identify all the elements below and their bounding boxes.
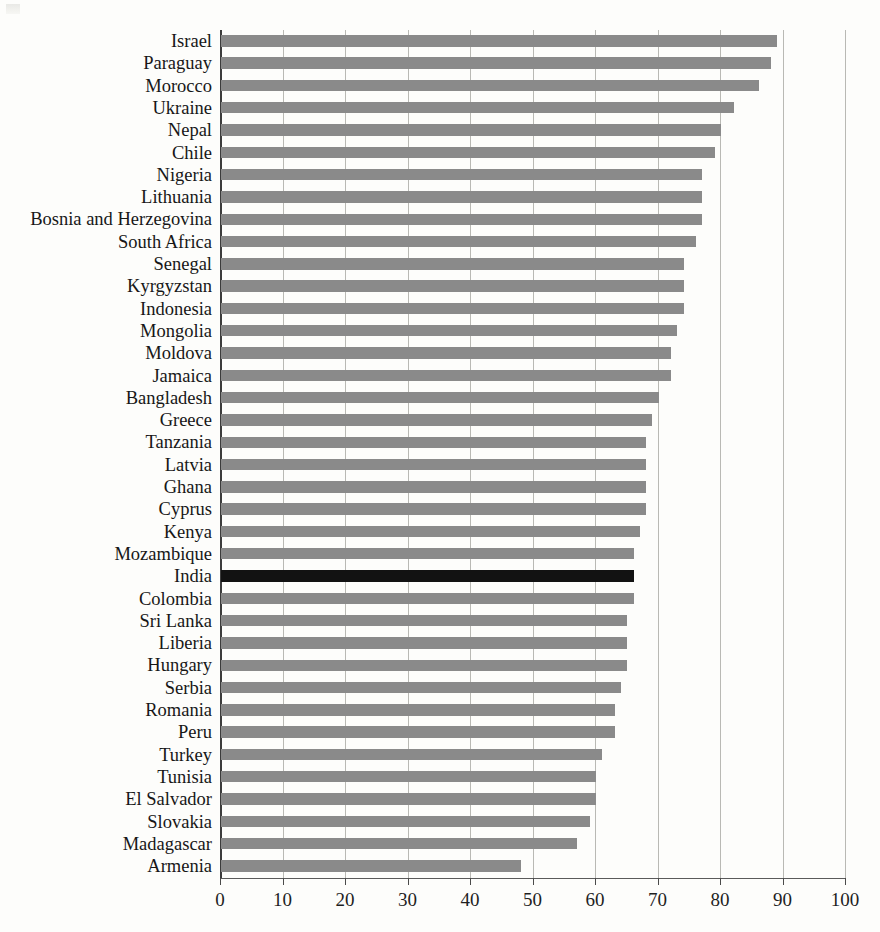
bar-row: Israel bbox=[0, 30, 880, 52]
tick-30 bbox=[408, 878, 409, 885]
bar-row: Chile bbox=[0, 142, 880, 164]
category-label-tunisia: Tunisia bbox=[0, 766, 212, 788]
bar-row: Senegal bbox=[0, 253, 880, 275]
bar-row: Ghana bbox=[0, 476, 880, 498]
category-label-moldova: Moldova bbox=[0, 342, 212, 364]
tick-70 bbox=[658, 878, 659, 885]
x-tick-label-40: 40 bbox=[440, 888, 500, 912]
bar-peru bbox=[221, 726, 615, 737]
category-label-hungary: Hungary bbox=[0, 654, 212, 676]
bar-row: Kyrgyzstan bbox=[0, 275, 880, 297]
category-label-madagascar: Madagascar bbox=[0, 833, 212, 855]
tick-100 bbox=[845, 878, 846, 885]
bar-row: Nigeria bbox=[0, 164, 880, 186]
category-label-peru: Peru bbox=[0, 721, 212, 743]
bar-liberia bbox=[221, 637, 627, 648]
bar-row: Ukraine bbox=[0, 97, 880, 119]
category-label-nepal: Nepal bbox=[0, 119, 212, 141]
bar-row: El Salvador bbox=[0, 788, 880, 810]
bar-row: Armenia bbox=[0, 855, 880, 877]
category-label-ghana: Ghana bbox=[0, 476, 212, 498]
bar-row: Bangladesh bbox=[0, 387, 880, 409]
bar-colombia bbox=[221, 593, 634, 604]
x-tick-label-0: 0 bbox=[190, 888, 250, 912]
x-tick-label-80: 80 bbox=[690, 888, 750, 912]
category-label-bangladesh: Bangladesh bbox=[0, 387, 212, 409]
tick-50 bbox=[533, 878, 534, 885]
bar-row: Colombia bbox=[0, 588, 880, 610]
category-label-nigeria: Nigeria bbox=[0, 164, 212, 186]
bar-row: Hungary bbox=[0, 654, 880, 676]
category-label-el-salvador: El Salvador bbox=[0, 788, 212, 810]
bar-row: South Africa bbox=[0, 231, 880, 253]
bar-row: Greece bbox=[0, 409, 880, 431]
bar-row: Lithuania bbox=[0, 186, 880, 208]
tick-20 bbox=[345, 878, 346, 885]
bar-mongolia bbox=[221, 325, 677, 336]
bar-row: Romania bbox=[0, 699, 880, 721]
bar-kenya bbox=[221, 526, 640, 537]
bar-row: Indonesia bbox=[0, 298, 880, 320]
category-label-greece: Greece bbox=[0, 409, 212, 431]
bar-row: Morocco bbox=[0, 75, 880, 97]
category-label-paraguay: Paraguay bbox=[0, 52, 212, 74]
bar-ghana bbox=[221, 481, 646, 492]
category-label-romania: Romania bbox=[0, 699, 212, 721]
bar-moldova bbox=[221, 347, 671, 358]
bar-row: Tunisia bbox=[0, 766, 880, 788]
x-tick-label-30: 30 bbox=[378, 888, 438, 912]
category-label-israel: Israel bbox=[0, 30, 212, 52]
category-label-mozambique: Mozambique bbox=[0, 543, 212, 565]
bar-south-africa bbox=[221, 236, 696, 247]
bar-tanzania bbox=[221, 437, 646, 448]
bar-romania bbox=[221, 704, 615, 715]
bar-row: Sri Lanka bbox=[0, 610, 880, 632]
category-label-kyrgyzstan: Kyrgyzstan bbox=[0, 275, 212, 297]
bar-row: Serbia bbox=[0, 677, 880, 699]
x-tick-label-90: 90 bbox=[753, 888, 813, 912]
bar-row: Nepal bbox=[0, 119, 880, 141]
bar-chile bbox=[221, 147, 715, 158]
bar-hungary bbox=[221, 660, 627, 671]
bar-mozambique bbox=[221, 548, 634, 559]
category-label-turkey: Turkey bbox=[0, 744, 212, 766]
category-label-jamaica: Jamaica bbox=[0, 365, 212, 387]
bar-paraguay bbox=[221, 57, 771, 68]
bar-bangladesh bbox=[221, 392, 659, 403]
x-tick-label-20: 20 bbox=[315, 888, 375, 912]
category-label-ukraine: Ukraine bbox=[0, 97, 212, 119]
bar-lithuania bbox=[221, 191, 702, 202]
category-label-senegal: Senegal bbox=[0, 253, 212, 275]
bar-armenia bbox=[221, 860, 521, 871]
bar-sri-lanka bbox=[221, 615, 627, 626]
category-label-lithuania: Lithuania bbox=[0, 186, 212, 208]
bar-row: Mozambique bbox=[0, 543, 880, 565]
bar-row: Peru bbox=[0, 721, 880, 743]
category-label-colombia: Colombia bbox=[0, 588, 212, 610]
bar-madagascar bbox=[221, 838, 577, 849]
category-label-sri-lanka: Sri Lanka bbox=[0, 610, 212, 632]
tick-80 bbox=[720, 878, 721, 885]
bar-senegal bbox=[221, 258, 684, 269]
category-label-india: India bbox=[0, 565, 212, 587]
category-label-bosnia-and-herzegovina: Bosnia and Herzegovina bbox=[0, 208, 212, 230]
horizontal-bar-chart: IsraelParaguayMoroccoUkraineNepalChileNi… bbox=[0, 0, 880, 932]
bar-cyprus bbox=[221, 503, 646, 514]
bar-row: Jamaica bbox=[0, 365, 880, 387]
bar-row: Moldova bbox=[0, 342, 880, 364]
bar-serbia bbox=[221, 682, 621, 693]
category-label-chile: Chile bbox=[0, 142, 212, 164]
tick-10 bbox=[283, 878, 284, 885]
category-label-liberia: Liberia bbox=[0, 632, 212, 654]
category-label-slovakia: Slovakia bbox=[0, 811, 212, 833]
bar-latvia bbox=[221, 459, 646, 470]
bar-row: Turkey bbox=[0, 744, 880, 766]
tick-40 bbox=[470, 878, 471, 885]
x-tick-label-60: 60 bbox=[565, 888, 625, 912]
bar-row: Latvia bbox=[0, 454, 880, 476]
bar-row: Madagascar bbox=[0, 833, 880, 855]
category-label-armenia: Armenia bbox=[0, 855, 212, 877]
bar-nepal bbox=[221, 124, 721, 135]
bar-row: Liberia bbox=[0, 632, 880, 654]
x-tick-label-10: 10 bbox=[253, 888, 313, 912]
